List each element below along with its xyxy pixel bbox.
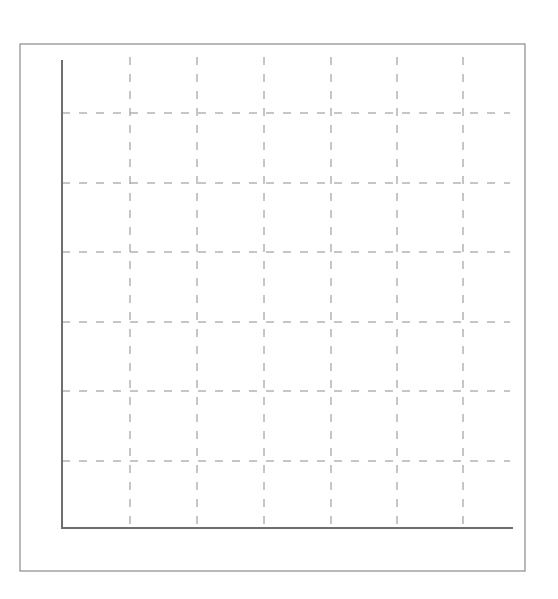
chart-page <box>0 0 558 599</box>
vertical-gridlines <box>130 57 463 528</box>
chart-plot <box>0 0 558 599</box>
frame-border <box>20 44 525 571</box>
horizontal-gridlines <box>62 113 510 461</box>
outer-frame <box>20 44 525 571</box>
